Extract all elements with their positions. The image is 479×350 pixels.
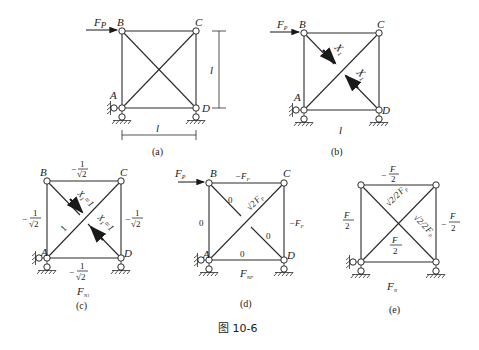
force-bc: − F 2 bbox=[381, 164, 399, 184]
node-label-c: C bbox=[377, 18, 385, 30]
panel-b: X1 X1 FP B C A D l (b) bbox=[270, 18, 390, 158]
svg-text:F: F bbox=[343, 210, 350, 220]
load-label: FP bbox=[93, 16, 107, 30]
node-label-b: B bbox=[117, 16, 124, 28]
svg-text:√2: √2 bbox=[29, 219, 38, 229]
redundant-arrow-upper-icon bbox=[323, 50, 335, 63]
load-label: FP bbox=[174, 167, 186, 180]
force-ab: 0 bbox=[199, 218, 204, 228]
node-label-d: D bbox=[286, 249, 295, 261]
svg-text:1: 1 bbox=[80, 159, 85, 169]
svg-text:2: 2 bbox=[345, 221, 350, 231]
force-ac: √2FP bbox=[244, 192, 265, 213]
caption-b: (b) bbox=[331, 146, 343, 158]
svg-text:√2: √2 bbox=[77, 169, 86, 179]
svg-text:1: 1 bbox=[33, 208, 38, 218]
load-label: FP bbox=[276, 18, 288, 31]
svg-text:√2: √2 bbox=[76, 272, 85, 282]
pin-support-a bbox=[289, 103, 313, 126]
node-c bbox=[193, 28, 199, 34]
node-label-d: D bbox=[123, 247, 132, 259]
diagram-label-fn: FN bbox=[386, 280, 398, 293]
force-bd: √2/2FP bbox=[411, 212, 437, 238]
svg-text:−: − bbox=[125, 214, 130, 224]
dimension-label-vertical: l bbox=[210, 64, 213, 76]
force-ab: − 1 √2 bbox=[22, 208, 41, 229]
pin-support-a bbox=[107, 101, 131, 124]
redundant-arrow-lower-icon bbox=[346, 76, 358, 88]
member-bd-cut-upper bbox=[304, 33, 334, 64]
node-label-c: C bbox=[283, 167, 291, 179]
svg-text:F: F bbox=[391, 235, 398, 245]
node-label-a: A bbox=[293, 91, 301, 103]
force-cd: − F 2 bbox=[441, 211, 460, 233]
force-bc: − 1 √2 bbox=[71, 159, 88, 179]
node-label-d: D bbox=[381, 104, 390, 116]
svg-text:−: − bbox=[441, 219, 446, 229]
force-bc: −FP bbox=[235, 171, 250, 182]
force-ad: − 1 √2 bbox=[69, 261, 88, 282]
diagram-label-fn1: FN1 bbox=[76, 285, 90, 298]
force-ad: F 2 bbox=[390, 235, 402, 256]
svg-text:−: − bbox=[71, 164, 76, 174]
force-ac: 1 bbox=[58, 223, 68, 233]
force-ab: F 2 bbox=[343, 210, 354, 231]
node-label-a: A bbox=[109, 89, 117, 101]
svg-text:−: − bbox=[69, 267, 74, 277]
figure-caption: 图 10-6 bbox=[218, 322, 257, 335]
node-label-a: A bbox=[40, 246, 48, 258]
svg-text:2: 2 bbox=[391, 174, 396, 184]
svg-text:1: 1 bbox=[80, 261, 85, 271]
caption-e: (e) bbox=[389, 304, 400, 316]
dimension-label-horizontal: l bbox=[156, 122, 159, 134]
caption-d: (d) bbox=[240, 298, 252, 310]
svg-text:1: 1 bbox=[135, 208, 140, 218]
caption-c: (c) bbox=[76, 300, 87, 312]
panel-a: FP B C A D l l (a) bbox=[86, 16, 226, 158]
force-ad: 0 bbox=[240, 249, 245, 259]
force-ac: √2/2FP bbox=[383, 183, 409, 209]
svg-text:√2: √2 bbox=[131, 219, 140, 229]
node-label-b: B bbox=[210, 167, 217, 179]
node-label-b: B bbox=[299, 18, 306, 30]
unit-force-arrow-lower-icon bbox=[91, 227, 103, 240]
unit-force-label-lower: X1=1 bbox=[94, 212, 116, 234]
panel-e: − F 2 F 2 − F 2 F 2 √2/2FP √2/2FP FN (e) bbox=[343, 164, 460, 316]
force-bd-upper: 0 bbox=[228, 195, 233, 205]
svg-text:2: 2 bbox=[393, 246, 398, 256]
node-label-a: A bbox=[202, 248, 210, 260]
caption-a: (a) bbox=[152, 146, 163, 158]
force-cd: − 1 √2 bbox=[125, 208, 143, 229]
redundant-label-lower: X1 bbox=[353, 65, 370, 82]
svg-text:2: 2 bbox=[451, 223, 456, 233]
force-cd: −FP bbox=[289, 218, 304, 229]
force-bd-lower: 0 bbox=[266, 231, 271, 241]
redundant-label-upper: X1 bbox=[331, 40, 348, 57]
figure-10-6: FP B C A D l l (a) X1 X1 FP B C bbox=[0, 0, 479, 350]
node-label-c: C bbox=[195, 16, 203, 28]
node-label-c: C bbox=[120, 166, 128, 178]
svg-text:−: − bbox=[22, 214, 27, 224]
svg-text:F: F bbox=[389, 164, 396, 174]
node-label-b: B bbox=[40, 166, 47, 178]
svg-text:−: − bbox=[381, 170, 386, 180]
node-label-d: D bbox=[201, 102, 210, 114]
node-b bbox=[119, 28, 125, 34]
diagram-label-fnp: FNP bbox=[239, 267, 253, 280]
panel-c: X1=1 X1=1 B C A D − 1 √2 − 1 √2 − 1 √2 bbox=[22, 159, 143, 312]
dimension-label-horizontal: l bbox=[339, 124, 342, 136]
panel-d: FP B C A D −FP 0 −FP 0 0 0 √2FP FNP (d) bbox=[174, 167, 304, 310]
svg-text:F: F bbox=[449, 211, 456, 221]
